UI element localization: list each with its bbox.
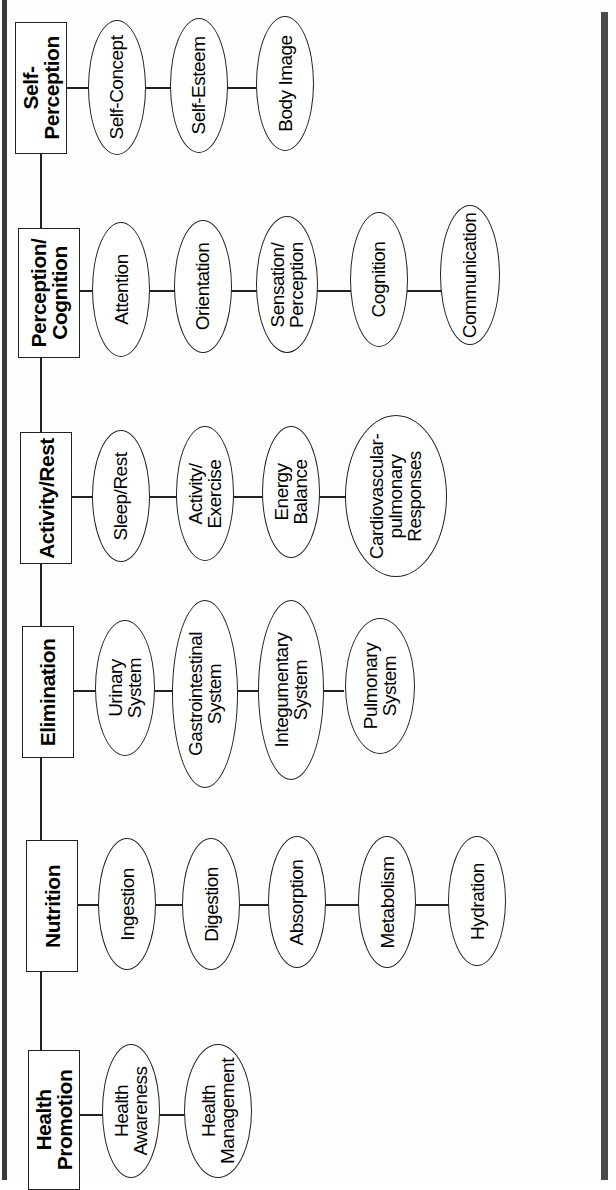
item-energy-balance: Energy Balance: [262, 426, 320, 558]
mask: [314, 87, 514, 89]
item-cardiovascular-pulmonary-responses: Cardiovascular- pulmonary Responses: [345, 415, 447, 577]
item-health-management: Health Management: [184, 1044, 252, 1178]
category-elimination: Elimination: [22, 626, 74, 758]
item-attention: Attention: [92, 222, 150, 357]
item-metabolism: Metabolism: [358, 836, 416, 968]
left-border-rule: [2, 0, 7, 1180]
item-digestion: Digestion: [182, 838, 240, 970]
category-self-perception: Self- Perception: [15, 22, 67, 154]
item-sleep-rest: Sleep/Rest: [92, 430, 150, 562]
category-nutrition: Nutrition: [26, 840, 78, 972]
category-perception-cognition: Perception/ Cognition: [18, 228, 80, 358]
item-orientation: Orientation: [174, 220, 232, 353]
item-ingestion: Ingestion: [98, 838, 156, 970]
item-gastrointestinal-system: Gastrointestinal System: [172, 600, 238, 788]
item-hydration: Hydration: [448, 836, 506, 966]
item-self-esteem: Self-Esteem: [170, 18, 228, 153]
item-integumentary-system: Integumentary System: [258, 600, 324, 780]
item-pulmonary-system: Pulmonary System: [345, 618, 415, 754]
item-cognition: Cognition: [350, 212, 408, 347]
item-activity-exercise: Activity/ Exercise: [176, 426, 234, 561]
item-absorption: Absorption: [268, 836, 326, 968]
item-self-concept: Self-Concept: [88, 20, 146, 155]
right-border-rule: [601, 12, 608, 1180]
item-health-awareness: Health Awareness: [102, 1044, 160, 1178]
item-sensation-perception: Sensation/ Perception: [256, 216, 318, 353]
category-activity-rest: Activity/Rest: [20, 432, 72, 564]
item-urinary-system: Urinary System: [95, 620, 155, 756]
category-health-promotion: Health Promotion: [28, 1050, 80, 1190]
item-body-image: Body Image: [256, 16, 314, 151]
item-communication: Communication: [440, 205, 500, 345]
